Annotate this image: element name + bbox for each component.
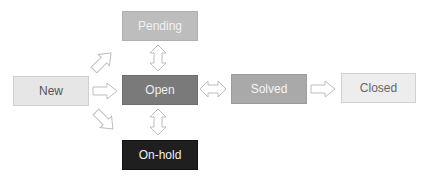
arrow-open-solved (200, 81, 226, 97)
arrow-new-to-pending (88, 47, 116, 75)
node-closed: Closed (341, 73, 416, 103)
node-open: Open (122, 75, 198, 105)
arrow-open-onhold (150, 109, 166, 135)
arrow-solved-to-closed (311, 81, 335, 97)
node-onhold: On-hold (122, 140, 198, 170)
node-pending: Pending (122, 11, 198, 41)
arrow-new-to-onhold (90, 106, 118, 134)
arrow-pending-open (150, 45, 166, 71)
node-new: New (13, 76, 89, 106)
node-solved: Solved (231, 74, 307, 104)
arrow-new-to-open (93, 83, 117, 99)
